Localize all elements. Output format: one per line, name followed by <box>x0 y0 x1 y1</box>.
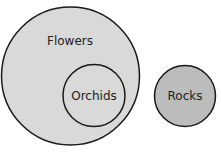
label-flowers: Flowers <box>47 34 93 48</box>
set-orchids: Orchids <box>63 65 125 127</box>
label-orchids: Orchids <box>71 89 117 103</box>
euler-diagram: Flowers Orchids Rocks <box>0 0 221 156</box>
set-rocks: Rocks <box>155 66 216 127</box>
label-rocks: Rocks <box>168 89 203 103</box>
